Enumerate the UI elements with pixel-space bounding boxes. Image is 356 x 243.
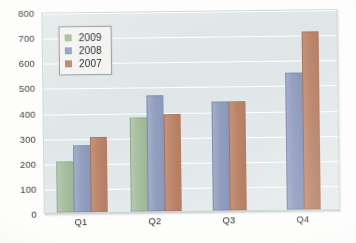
bar-group [190,11,266,211]
chart-legend: 200920082007 [59,26,113,76]
x-axis: Q1Q2Q3Q4 [44,211,340,237]
x-axis-tick-label: Q1 [74,216,87,227]
legend-swatch-icon [65,60,72,67]
y-axis-tick-label: 0 [31,208,37,219]
bar-q4-2008 [285,73,304,210]
bar-q2-2008 [146,96,164,212]
bar-q2-2009 [129,117,147,211]
bar-group [264,10,340,210]
bar-q1-2008 [72,146,90,213]
x-axis-tick-label: Q4 [296,213,309,224]
bar-q2-2007 [163,114,181,211]
y-axis-tick-label: 600 [19,57,35,68]
legend-item-2009: 2009 [65,31,102,44]
y-axis-tick-label: 500 [19,83,35,94]
y-axis-tick-label: 200 [20,158,36,169]
x-axis-tick-label: Q2 [148,215,161,226]
legend-label: 2009 [79,31,102,44]
legend-label: 2008 [79,44,102,57]
y-axis-tick-label: 300 [20,133,36,144]
y-axis-tick-label: 100 [20,183,36,194]
bar-q3-2007 [228,101,246,210]
scanned-figure: 0100200300400500600700800 200920082007 Q… [0,0,356,243]
figure-tilt-wrapper: 0100200300400500600700800 200920082007 Q… [0,0,356,243]
x-axis-tick-label: Q3 [222,214,235,225]
y-axis: 0100200300400500600700800 [0,13,42,214]
y-axis-tick-label: 400 [19,108,35,119]
bar-q4-2007 [302,31,321,210]
legend-item-2007: 2007 [65,57,102,70]
bar-group [116,12,192,212]
y-axis-tick-label: 700 [18,32,34,43]
bar-q3-2008 [211,101,229,210]
legend-label: 2007 [79,57,102,70]
y-axis-tick-label: 800 [18,7,34,18]
legend-item-2008: 2008 [65,44,102,57]
legend-swatch-icon [65,34,72,41]
bar-q1-2007 [89,136,107,212]
plot-frame: 200920082007 [41,9,339,214]
legend-swatch-icon [65,47,72,54]
bar-q1-2009 [56,161,74,213]
